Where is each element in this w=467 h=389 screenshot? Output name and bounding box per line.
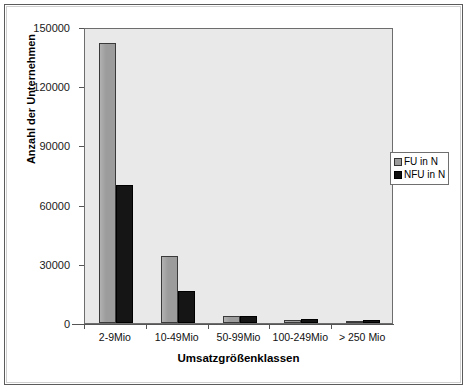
bar-fu [284, 320, 301, 323]
bar-nfu [363, 320, 380, 323]
legend-item-nfu: NFU in N [394, 168, 445, 181]
chart-legend: FU in N NFU in N [390, 152, 449, 185]
bar-fu [223, 316, 240, 323]
bar-fu [161, 256, 178, 323]
y-axis-tick-mark [79, 146, 84, 147]
y-axis-tick-mark [79, 87, 84, 88]
y-axis-line [84, 28, 85, 325]
y-axis-tick-label: 150000 [10, 22, 70, 34]
y-axis-tick-label: 120000 [10, 81, 70, 93]
bar-fu [346, 321, 363, 323]
x-axis-tick-mark [208, 324, 209, 329]
x-axis-line [72, 324, 394, 325]
x-axis-tick-mark [84, 324, 85, 329]
bar-nfu [240, 316, 257, 323]
bar-nfu [116, 185, 133, 323]
legend-swatch-nfu-icon [394, 171, 402, 179]
y-axis-tick-label: 0 [10, 318, 70, 330]
figure-bar-chart: 0300006000090000120000150000 2-9Mio10-49… [0, 0, 467, 389]
x-axis-tick-mark [331, 324, 332, 329]
bar-nfu [178, 291, 195, 323]
bars-layer [85, 29, 392, 323]
legend-label-nfu: NFU in N [404, 169, 445, 180]
y-axis-tick-label: 90000 [10, 140, 70, 152]
bar-nfu [301, 319, 318, 323]
legend-swatch-fu-icon [394, 158, 402, 166]
legend-item-fu: FU in N [394, 155, 445, 168]
x-axis-category-label: > 250 Mio [307, 331, 417, 343]
y-axis-tick-label: 60000 [10, 200, 70, 212]
plot-area [84, 28, 393, 324]
legend-label-fu: FU in N [404, 156, 438, 167]
y-axis-tick-mark [79, 28, 84, 29]
bar-fu [99, 43, 116, 323]
x-axis-tick-mark [269, 324, 270, 329]
y-axis-tick-mark [79, 206, 84, 207]
x-axis-title: Umsatzgrößenklassen [84, 352, 393, 364]
x-axis-tick-mark [146, 324, 147, 329]
y-axis-tick-mark [79, 265, 84, 266]
y-axis-tick-label: 30000 [10, 259, 70, 271]
y-axis-title: Anzahl der Unternehmen [25, 4, 37, 194]
